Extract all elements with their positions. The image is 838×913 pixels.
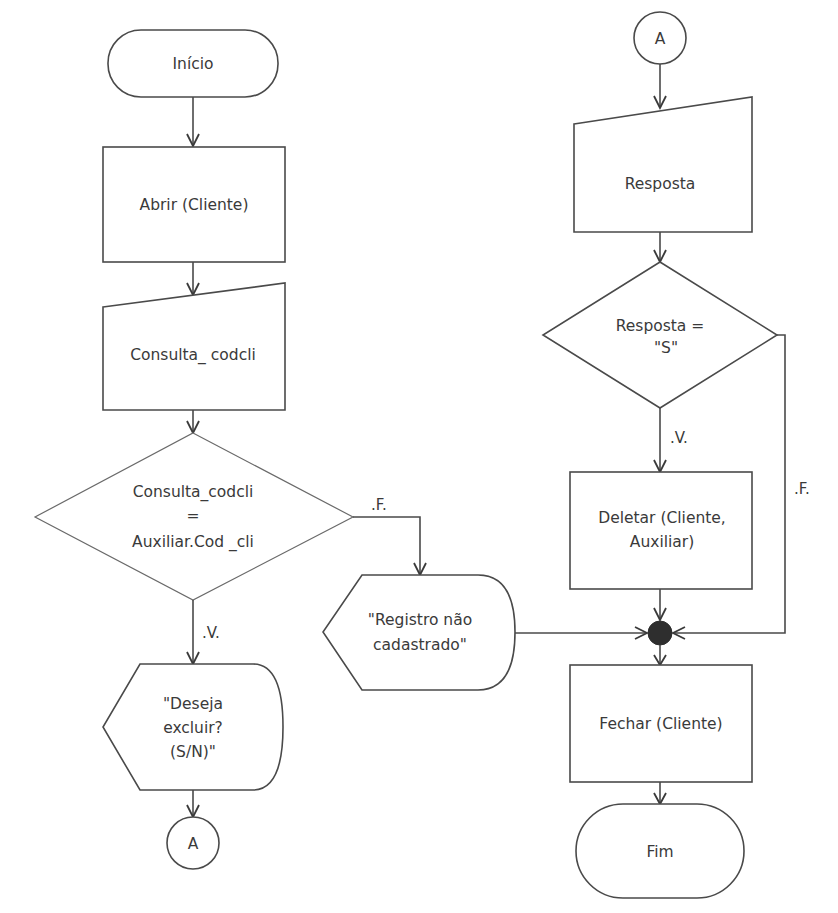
open-client-process: Abrir (Cliente) (103, 147, 285, 262)
query-codcli-input: Consulta_ codcli (103, 283, 285, 410)
not-found-line1: "Registro não (368, 611, 472, 629)
merge-point (648, 621, 672, 645)
arrow-response-to-decision (654, 232, 666, 262)
delete-process: Deletar (Cliente, Auxiliar) (570, 472, 752, 589)
true-label-right: .V. (670, 429, 688, 447)
response-decision: Resposta = "S" (543, 262, 777, 408)
decision-line3: Auxiliar.Cod _cli (132, 533, 254, 552)
arrow-not-found-to-merge (515, 627, 647, 639)
flowchart-canvas: Início Abrir (Cliente) Consulta_ codcli … (0, 0, 838, 913)
arrow-connector-to-response (654, 64, 666, 108)
true-label-left: .V. (202, 624, 220, 642)
response-input: Resposta (574, 97, 752, 232)
arrow-merge-to-close (654, 645, 666, 665)
start-terminal: Início (108, 30, 278, 97)
start-label: Início (172, 55, 213, 73)
delete-line1: Deletar (Cliente, (598, 509, 726, 527)
codcli-decision: Consulta_codcli = Auxiliar.Cod _cli (35, 433, 353, 600)
confirm-line2: excluir? (163, 719, 223, 737)
decision-line2: = (187, 507, 200, 525)
end-label: Fim (646, 843, 673, 861)
arrow-confirm-to-connector (187, 790, 199, 817)
confirm-line1: "Deseja (163, 695, 223, 713)
false-label-left: .F. (371, 496, 387, 514)
response-decision-line2: "S" (654, 339, 678, 357)
false-label-right: .F. (794, 480, 810, 498)
close-client-process: Fechar (Cliente) (570, 665, 752, 782)
arrow-open-to-input (187, 262, 199, 295)
connector-a-in-label: A (655, 30, 666, 48)
not-found-display: "Registro não cadastrado" (323, 575, 515, 690)
arrow-decision-true: .V. (187, 600, 220, 664)
arrow-response-true: .V. (654, 408, 688, 472)
response-label: Resposta (625, 175, 696, 193)
arrow-close-to-end (654, 782, 666, 804)
arrow-input-to-decision (187, 410, 199, 433)
end-terminal: Fim (576, 804, 744, 898)
decision-line1: Consulta_codcli (133, 483, 254, 502)
close-client-label: Fechar (Cliente) (599, 715, 722, 733)
connector-a-out: A (167, 817, 219, 869)
confirm-delete-display: "Deseja excluir? (S/N)" (103, 664, 283, 790)
arrow-start-to-open (187, 97, 199, 146)
confirm-line3: (S/N)" (170, 743, 216, 761)
query-codcli-label: Consulta_ codcli (130, 346, 256, 365)
connector-a-in: A (634, 12, 686, 64)
delete-line2: Auxiliar) (630, 533, 694, 551)
not-found-line2: cadastrado" (373, 636, 467, 654)
response-decision-line1: Resposta = (616, 317, 705, 335)
connector-a-out-label: A (188, 835, 199, 853)
open-client-label: Abrir (Cliente) (140, 196, 249, 214)
arrow-delete-to-merge (654, 589, 666, 620)
arrow-decision-false: .F. (353, 496, 426, 575)
